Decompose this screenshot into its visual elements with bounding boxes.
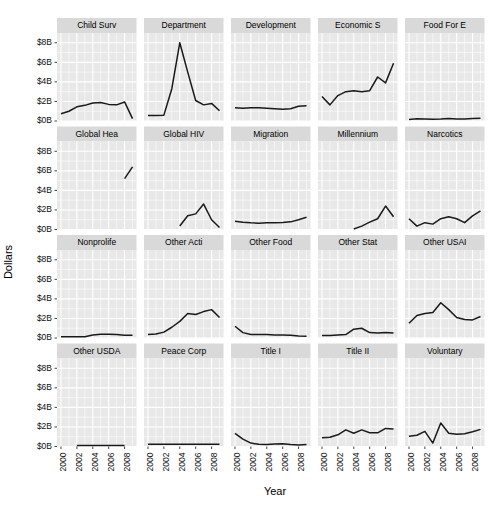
x-tick-label: 2000 [232, 452, 242, 471]
facet-panel: Other USAI [405, 235, 485, 338]
facet-panel: Nonprolife [57, 235, 137, 338]
panel-strip-label: Migration [253, 129, 288, 139]
panel-strip-label: Title I [261, 346, 281, 356]
y-axis-title: Dollars [2, 244, 14, 279]
facet-panel: Food For E [405, 18, 485, 121]
facet-panel: Title I [231, 344, 311, 447]
y-tick-label: $8B [37, 254, 52, 264]
x-tick-label: 2008 [209, 452, 219, 471]
x-tick-label: 2004 [351, 452, 361, 471]
y-tick-label: $4B [37, 402, 52, 412]
panel-strip-label: Global HIV [163, 129, 204, 139]
x-tick-label: 2002 [74, 452, 84, 471]
x-tick-label: 2006 [280, 452, 290, 471]
panel-strip-label: Economic S [335, 20, 381, 30]
panel-strip-label: Development [246, 20, 297, 30]
y-tick-label: $2B [37, 204, 52, 214]
panel-strip-label: Other USAI [423, 237, 466, 247]
x-tick-label: 2002 [161, 452, 171, 471]
x-tick-label: 2002 [248, 452, 258, 471]
x-tick-label: 2002 [422, 452, 432, 471]
x-tick-label: 2000 [319, 452, 329, 471]
y-tick-label: $6B [37, 382, 52, 392]
x-axis-title: Year [264, 485, 287, 497]
x-tick-label: 2006 [106, 452, 116, 471]
panel-strip-label: Millennium [337, 129, 378, 139]
facet-panel: Economic S [318, 18, 398, 121]
x-tick-label: 2006 [367, 452, 377, 471]
y-tick-label: $6B [37, 274, 52, 284]
facet-panel: Peace Corp [144, 344, 224, 447]
facet-panel: Child Surv [57, 18, 137, 121]
x-axis-title-label: Year [264, 485, 287, 497]
chart-svg: Dollars Year Child SurvDepartmentDevelop… [0, 0, 494, 512]
series-line [409, 118, 481, 119]
facet-panel: Other Food [231, 235, 311, 338]
panel-strip-label: Other Acti [165, 237, 202, 247]
y-tick-label: $6B [37, 165, 52, 175]
y-tick-label: $2B [37, 421, 52, 431]
panel-strip-label: Nonprolife [77, 237, 116, 247]
panel-strip-label: Other Stat [338, 237, 377, 247]
y-tick-label: $8B [37, 37, 52, 47]
y-tick-label: $0B [37, 115, 52, 125]
facet-panel: Other Stat [318, 235, 398, 338]
facet-panel: Department [144, 18, 224, 121]
facet-panel: Global HIV [144, 127, 224, 230]
facet-panel: Other USDA [57, 344, 137, 447]
x-tick-label: 2008 [296, 452, 306, 471]
y-tick-label: $4B [37, 293, 52, 303]
panel-strip-label: Other Food [249, 237, 292, 247]
panel-strip-label: Title II [346, 346, 369, 356]
panel-strip-label: Food For E [423, 20, 466, 30]
y-tick-label: $6B [37, 57, 52, 67]
panel-strip-label: Voluntary [427, 346, 463, 356]
facet-panel: Other Acti [144, 235, 224, 338]
faceted-line-chart: Dollars Year Child SurvDepartmentDevelop… [0, 0, 494, 512]
y-axis-title-label: Dollars [2, 244, 14, 279]
x-tick-label: 2008 [122, 452, 132, 471]
panel-strip-label: Narcotics [427, 129, 462, 139]
x-tick-label: 2004 [438, 452, 448, 471]
y-tick-label: $0B [37, 224, 52, 234]
panel-strip-label: Global Hea [75, 129, 118, 139]
facet-panel: Development [231, 18, 311, 121]
facet-panel: Millennium [318, 127, 398, 230]
y-tick-label: $4B [37, 185, 52, 195]
x-tick-label: 2008 [383, 452, 393, 471]
x-tick-label: 2000 [406, 452, 416, 471]
x-tick-label: 2002 [335, 452, 345, 471]
x-tick-label: 2000 [58, 452, 68, 471]
facet-panel: Title II [318, 344, 398, 447]
facet-panel: Narcotics [405, 127, 485, 230]
x-tick-label: 2008 [470, 452, 480, 471]
x-tick-label: 2004 [264, 452, 274, 471]
panel-strip-label: Other USDA [73, 346, 121, 356]
panel-strip-label: Child Surv [77, 20, 117, 30]
y-tick-label: $2B [37, 313, 52, 323]
panel-strip-label: Department [162, 20, 207, 30]
x-tick-label: 2004 [177, 452, 187, 471]
y-tick-label: $0B [37, 441, 52, 451]
y-tick-label: $8B [37, 146, 52, 156]
x-tick-label: 2006 [193, 452, 203, 471]
facet-panel: Global Hea [57, 127, 137, 230]
x-tick-label: 2000 [145, 452, 155, 471]
x-tick-label: 2006 [454, 452, 464, 471]
facet-panel: Voluntary [405, 344, 485, 447]
y-tick-label: $4B [37, 76, 52, 86]
y-tick-label: $0B [37, 332, 52, 342]
panel-strip-label: Peace Corp [161, 346, 206, 356]
y-tick-label: $8B [37, 363, 52, 373]
y-tick-label: $2B [37, 96, 52, 106]
x-tick-label: 2004 [90, 452, 100, 471]
facet-panel: Migration [231, 127, 311, 230]
